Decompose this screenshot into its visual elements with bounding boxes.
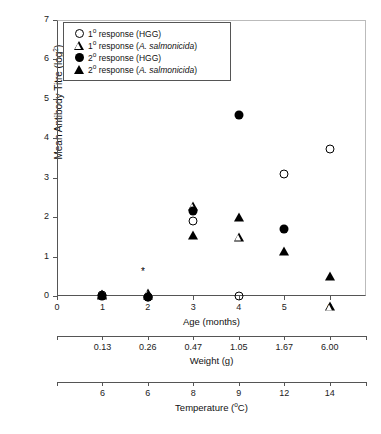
significance-asterisk: * [141,268,145,276]
y-tick [53,178,57,179]
temperature-axis-tick [330,382,331,386]
x-tick-label: 3 [178,302,208,312]
weight-axis-tick-label: 0.13 [82,342,122,352]
data-point-open-circle [325,144,334,153]
temperature-axis-tick [148,382,149,386]
data-point-open-circle [189,217,198,226]
x-tick [284,296,285,300]
x-tick [193,296,194,300]
temperature-axis-tick [102,382,103,386]
x-tick-label: 1 [87,302,117,312]
weight-axis-tick [148,336,149,340]
temperature-axis-tick [239,382,240,386]
temperature-axis-tick-label: 6 [82,388,122,398]
legend-item-label: 1o response (HGG) [88,27,161,39]
data-point-open-triangle [325,302,335,311]
y-tick [53,99,57,100]
legend-item-3: 2o response (A. salmonicida) [70,63,224,75]
data-point-filled-triangle [188,230,198,239]
x-tick-label: 0 [42,302,72,312]
temperature-axis-tick-label: 9 [219,388,259,398]
data-point-filled-triangle [325,272,335,281]
temperature-axis-tick [284,382,285,386]
data-point-filled-circle [189,207,198,216]
legend-item-2: 2o response (HGG) [70,51,224,63]
y-tick [53,217,57,218]
weight-axis-tick-label: 0.26 [128,342,168,352]
temperature-axis-cap [57,382,58,386]
legend-filled-circle-icon [70,53,88,62]
temperature-axis-title: Temperature (oC) [57,401,366,413]
weight-axis-tick [239,336,240,340]
data-point-filled-triangle [279,246,289,255]
data-point-filled-triangle [234,213,244,222]
weight-axis-tick [330,336,331,340]
chart-legend: 1o response (HGG)1o response (A. salmoni… [63,22,231,81]
y-tick-label: 4 [27,132,49,142]
y-tick [53,138,57,139]
weight-axis-tick [284,336,285,340]
temperature-axis-cap [366,382,367,386]
weight-axis-tick [193,336,194,340]
data-point-open-circle [234,292,243,301]
x-tick-label: 4 [224,302,254,312]
legend-item-0: 1o response (HGG) [70,27,224,39]
weight-axis-tick-label: 0.47 [173,342,213,352]
legend-item-label: 2o response (A. salmonicida) [88,63,197,75]
y-tick [53,59,57,60]
weight-axis-title: Weight (g) [57,355,366,366]
weight-axis-cap [366,336,367,340]
data-point-filled-triangle [97,291,107,300]
weight-axis-tick [102,336,103,340]
weight-axis-tick-label: 6.00 [310,342,350,352]
x-axis-title: Age (months) [57,316,366,327]
temperature-axis-tick-label: 8 [173,388,213,398]
legend-item-label: 1o response (A. salmonicida) [88,39,197,51]
temperature-axis-tick-label: 12 [264,388,304,398]
temperature-axis-tick-label: 6 [128,388,168,398]
y-tick-label: 7 [27,14,49,24]
y-tick-label: 0 [27,290,49,300]
temperature-axis-tick-label: 14 [310,388,350,398]
data-point-open-triangle [234,233,244,242]
data-point-filled-circle [234,111,243,120]
legend-open-circle-icon [70,29,88,38]
y-tick [53,20,57,21]
data-point-open-circle [280,169,289,178]
y-tick-label: 3 [27,172,49,182]
weight-axis-tick-label: 1.67 [264,342,304,352]
weight-axis-cap [57,336,58,340]
y-tick-label: 5 [27,93,49,103]
y-tick-label: 1 [27,251,49,261]
y-tick-label: 6 [27,53,49,63]
legend-open-triangle-icon [70,41,88,50]
data-point-filled-triangle [143,291,153,300]
x-tick-label: 2 [133,302,163,312]
data-point-filled-circle [280,224,289,233]
x-tick [330,296,331,300]
weight-axis-tick-label: 1.05 [219,342,259,352]
y-tick-label: 2 [27,211,49,221]
temperature-axis-tick [193,382,194,386]
x-tick [57,296,58,300]
x-tick-label: 5 [269,302,299,312]
chart-figure: Mean Antibody Titre (log2) 01234567 0123… [0,0,381,434]
legend-item-label: 2o response (HGG) [88,51,161,63]
legend-filled-triangle-icon [70,65,88,74]
legend-item-1: 1o response (A. salmonicida) [70,39,224,51]
y-tick [53,257,57,258]
